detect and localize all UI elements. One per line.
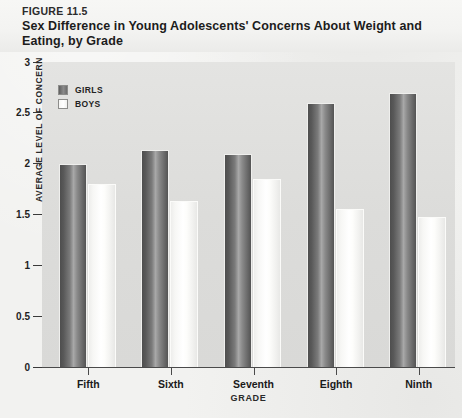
y-axis-tick-label: 2	[24, 158, 33, 169]
bars-layer	[42, 62, 455, 367]
legend-item-boys: BOYS	[58, 98, 103, 110]
y-axis-tick-mark	[33, 316, 42, 317]
bar-girls	[141, 150, 169, 367]
x-axis-tick-mark	[171, 367, 172, 375]
y-axis-tick-label: 1	[24, 260, 33, 271]
x-axis-tick-label: Eighth	[320, 378, 353, 390]
bar-girls	[389, 93, 417, 368]
bar-girls	[224, 154, 252, 368]
bar-group	[224, 62, 281, 367]
y-axis-tick-label: 0	[24, 362, 33, 373]
x-axis-tick-label: Sixth	[158, 378, 184, 390]
bar-boys	[170, 201, 198, 367]
legend-label-girls: GIRLS	[75, 85, 103, 95]
figure-number: FIGURE 11.5	[22, 5, 462, 17]
y-axis-tick-mark	[33, 214, 42, 215]
bar-group	[389, 62, 446, 367]
y-axis-tick-label: 1.5	[16, 209, 33, 220]
x-axis-tick-mark	[419, 367, 420, 375]
bar-girls	[59, 164, 87, 367]
x-axis-tick-mark	[88, 367, 89, 375]
x-axis: FifthSixthSeventhEighthNinth	[42, 367, 455, 411]
legend-swatch-boys-icon	[58, 99, 68, 109]
bar-group	[307, 62, 364, 367]
x-axis-tick-mark	[254, 367, 255, 375]
y-axis-tick: 1	[24, 259, 42, 271]
figure-title: Sex Difference in Young Adolescents' Con…	[22, 19, 452, 49]
y-axis-tick: 1.5	[16, 209, 42, 221]
y-axis-tick-label: 0.5	[16, 311, 33, 322]
y-axis-tick-label: 3	[24, 57, 33, 68]
legend-label-boys: BOYS	[75, 99, 101, 109]
legend-item-girls: GIRLS	[58, 84, 103, 96]
y-axis-tick: 0.5	[16, 310, 42, 322]
chart-legend: GIRLS BOYS	[58, 84, 103, 112]
y-axis-tick: 0	[24, 361, 42, 373]
bar-girls	[307, 103, 335, 367]
bar-boys	[418, 217, 446, 367]
bar-boys	[88, 184, 116, 367]
bar-boys	[253, 179, 281, 367]
legend-swatch-girls-icon	[58, 85, 68, 95]
x-axis-tick-label: Ninth	[405, 378, 432, 390]
x-axis-tick-mark	[336, 367, 337, 375]
x-axis-title: GRADE	[42, 393, 455, 403]
x-axis-tick-label: Seventh	[233, 378, 274, 390]
bar-group	[141, 62, 198, 367]
x-axis-tick-label: Fifth	[77, 378, 100, 390]
y-axis-tick-mark	[33, 265, 42, 266]
y-axis-tick-mark	[33, 367, 42, 368]
bar-boys	[336, 209, 364, 367]
chart-container: 00.511.522.53 AVERAGE LEVEL OF CONCERN G…	[0, 52, 462, 418]
y-axis-tick-label: 2.5	[16, 107, 33, 118]
figure-header: FIGURE 11.5 Sex Difference in Young Adol…	[0, 0, 462, 52]
